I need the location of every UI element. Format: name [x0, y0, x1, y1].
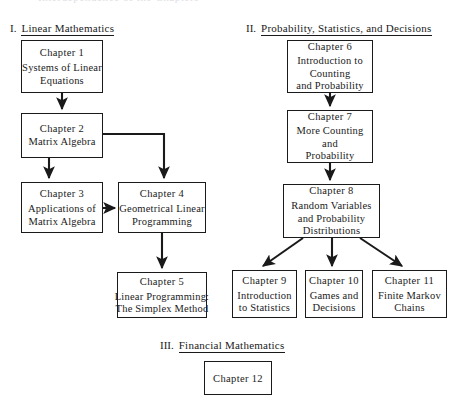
node-body-line: Applications of [28, 203, 96, 216]
node-chapter-2[interactable]: Chapter 2 Matrix Algebra [21, 113, 103, 158]
section-numeral: III. [160, 339, 174, 352]
node-chapter-4[interactable]: Chapter 4 Geometrical Linear Programming [118, 182, 206, 233]
node-title: Chapter 12 [213, 372, 263, 385]
node-chapter-7[interactable]: Chapter 7 More Counting and Probability [287, 110, 373, 163]
clipped-page-header: Interdependence of the Chapters [0, 0, 456, 6]
node-body-line: Games and [310, 290, 359, 303]
node-body-line: Programming [119, 216, 205, 229]
node-body-line: Systems of Linear [22, 62, 102, 75]
node-title: Chapter 2 [40, 122, 84, 135]
node-body: Systems of Linear Equations [22, 62, 102, 87]
node-chapter-6[interactable]: Chapter 6 Introduction to Counting and P… [287, 40, 373, 93]
node-body: Introduction to Counting and Probability [296, 55, 363, 93]
node-chapter-12[interactable]: Chapter 12 [204, 361, 272, 395]
node-chapter-3[interactable]: Chapter 3 Applications of Matrix Algebra [21, 182, 103, 233]
node-title: Chapter 3 [40, 187, 84, 200]
node-body-line: Probability [296, 150, 363, 163]
node-body-line: Linear Programming: [115, 291, 210, 304]
node-body-line: Matrix Algebra [28, 136, 95, 149]
section-numeral: II. [246, 22, 256, 35]
node-title: Chapter 5 [140, 275, 184, 288]
section-heading-financial-mathematics: III.Financial Mathematics [160, 339, 285, 353]
node-title: Chapter 6 [308, 40, 352, 53]
node-body-line: and Probability [296, 80, 363, 93]
section-numeral: I. [10, 22, 16, 35]
node-body: Games and Decisions [310, 290, 359, 315]
node-title: Chapter 4 [140, 187, 184, 200]
node-body: Matrix Algebra [28, 136, 95, 149]
node-body-line: Distributions [291, 225, 371, 238]
node-body: Geometrical Linear Programming [119, 203, 205, 228]
node-body-line: and Probability [291, 213, 371, 226]
node-title: Chapter 10 [309, 274, 359, 287]
node-body-line: Introduction [237, 290, 291, 303]
node-title: Chapter 7 [308, 110, 352, 123]
node-body: Introduction to Statistics [237, 290, 291, 315]
edge-ch2-ch4 [103, 134, 164, 178]
node-body-line: to Statistics [237, 302, 291, 315]
node-body-line: Chains [378, 302, 441, 315]
node-title: Chapter 9 [242, 274, 286, 287]
node-body-line: More Counting [296, 125, 363, 138]
node-body-line: and [296, 138, 363, 151]
node-body-line: Equations [22, 75, 102, 88]
section-title: Linear Mathematics [21, 22, 114, 36]
node-body: Linear Programming: The Simplex Method [115, 291, 210, 316]
node-title: Chapter 1 [40, 46, 84, 59]
edge-ch8-ch11 [360, 238, 402, 266]
node-chapter-1[interactable]: Chapter 1 Systems of Linear Equations [21, 40, 103, 93]
node-body-line: Geometrical Linear [119, 203, 205, 216]
node-body: Applications of Matrix Algebra [28, 203, 96, 228]
node-body-line: Matrix Algebra [28, 216, 96, 229]
node-chapter-10[interactable]: Chapter 10 Games and Decisions [305, 270, 363, 318]
node-body-line: Finite Markov [378, 290, 441, 303]
edge-ch8-ch9 [263, 238, 303, 266]
node-chapter-5[interactable]: Chapter 5 Linear Programming: The Simple… [117, 272, 207, 318]
node-chapter-9[interactable]: Chapter 9 Introduction to Statistics [232, 270, 297, 318]
node-body-line: Introduction to [296, 55, 363, 68]
node-body: Finite Markov Chains [378, 290, 441, 315]
node-body-line: Decisions [310, 302, 359, 315]
node-body-line: Counting [296, 68, 363, 81]
node-title: Chapter 8 [309, 184, 353, 197]
node-chapter-8[interactable]: Chapter 8 Random Variables and Probabili… [283, 184, 380, 238]
node-chapter-11[interactable]: Chapter 11 Finite Markov Chains [372, 270, 447, 318]
node-title: Chapter 11 [385, 274, 434, 287]
clipped-page-header-text: Interdependence of the Chapters [38, 0, 199, 3]
node-body-line: The Simplex Method [115, 303, 210, 316]
section-heading-linear-mathematics: I.Linear Mathematics [10, 22, 114, 36]
section-title: Probability, Statistics, and Decisions [261, 22, 431, 36]
node-body-line: Random Variables [291, 200, 371, 213]
section-heading-probability-statistics-decisions: II.Probability, Statistics, and Decision… [246, 22, 432, 36]
node-body: More Counting and Probability [296, 125, 363, 163]
node-body: Random Variables and Probability Distrib… [291, 200, 371, 238]
section-title: Financial Mathematics [179, 339, 285, 353]
